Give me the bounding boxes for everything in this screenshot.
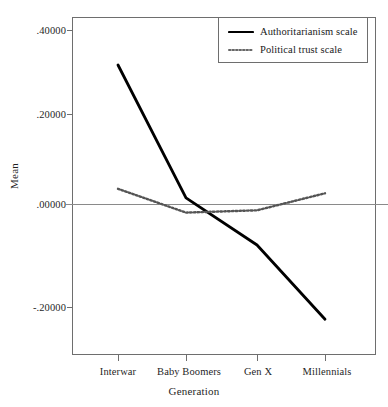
line-chart: .40000 .20000 .00000 -.20000 Mean Interw… [0,0,388,407]
series-line-political-trust [118,189,325,213]
dotted-line-icon [228,44,254,56]
legend-item-political-trust: Political trust scale [219,41,367,59]
legend-item-authoritarianism: Authoritarianism scale [219,23,367,41]
x-tick-marks [119,355,326,361]
solid-line-icon [228,26,254,38]
legend: Authoritarianism scale Political trust s… [218,17,368,63]
legend-label: Political trust scale [260,44,342,56]
series-line-authoritarianism [118,65,325,319]
legend-label: Authoritarianism scale [260,26,358,38]
y-tick-marks [67,31,72,308]
